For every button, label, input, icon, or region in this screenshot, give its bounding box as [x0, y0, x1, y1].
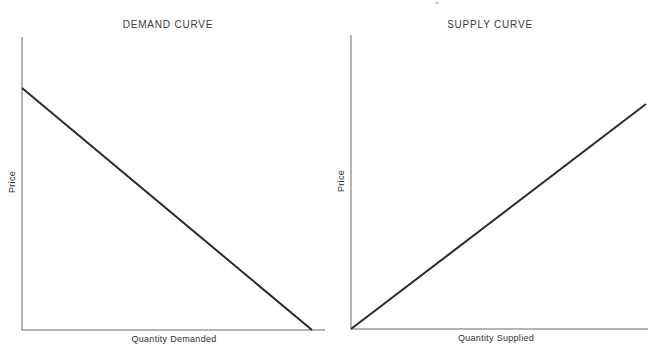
supply-curve-line	[351, 104, 646, 329]
supply-y-axis-label: Price	[336, 170, 346, 192]
demand-curve-line	[22, 88, 312, 330]
demand-y-axis-label: Price	[7, 171, 17, 193]
demand-chart	[22, 37, 325, 330]
supply-chart	[351, 35, 648, 329]
supply-chart-title: SUPPLY CURVE	[447, 19, 533, 30]
demand-chart-title: DEMAND CURVE	[123, 19, 214, 30]
demand-x-axis-label: Quantity Demanded	[131, 334, 216, 344]
supply-x-axis-label: Quantity Supplied	[458, 333, 534, 343]
figure-canvas	[0, 0, 658, 357]
